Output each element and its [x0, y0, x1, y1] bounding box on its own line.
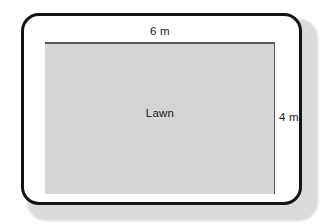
height-dimension-label: 4 m	[279, 112, 299, 124]
diagram-canvas: 6 m 4 m Lawn	[0, 0, 333, 224]
lawn-area-label: Lawn	[45, 108, 275, 120]
width-dimension-label: 6 m	[45, 26, 275, 38]
top-dimension-line	[45, 42, 275, 44]
